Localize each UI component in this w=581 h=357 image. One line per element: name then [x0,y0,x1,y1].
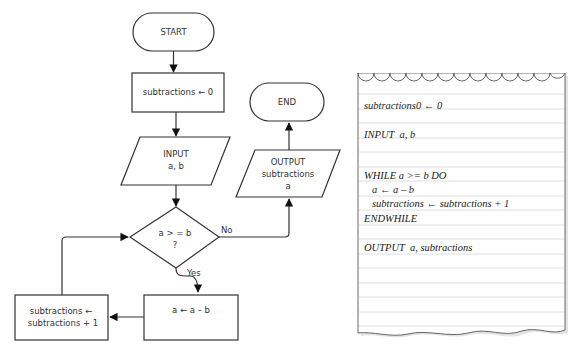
start-terminator: START [133,13,214,51]
init-label: subtractions ← 0 [143,87,214,97]
input-label-line1: INPUT [163,149,189,159]
pseudocode-line-increment: subtractions ← subtractions + 1 [372,198,509,210]
output-label-line3: a [285,181,290,191]
flowchart-canvas: START subtractions ← 0 INPUT a, b a > = … [0,0,581,357]
no-label: No [221,225,233,235]
pseudocode-line-output: OUTPUT a, subtractions [364,242,472,254]
decision-question-mark: ? [173,240,178,250]
pseudocode-line-input: INPUT a, b [364,129,415,141]
figure: START subtractions ← 0 INPUT a, b a > = … [0,0,581,357]
pseudocode-line-init: subtractions0 ← 0 [364,100,442,112]
output-parallelogram: OUTPUT subtractions a [236,150,340,197]
init-process-box: subtractions ← 0 [132,73,224,112]
output-label-line1: OUTPUT [271,157,306,167]
yes-label: Yes [186,268,201,278]
increment-label-line2: subtractions + 1 [28,318,99,328]
output-label-line2: subtractions [262,169,315,179]
decision-condition: a > = b [159,228,192,238]
pseudocode-line-endwhile: ENDWHILE [364,213,417,225]
increment-label-line1: subtractions ← [30,306,92,316]
decision-diamond: a > = b ? [130,207,219,268]
subtract-process-box: a ← a – b [144,295,238,340]
pseudocode-line-subtract: a ← a – b [372,184,414,196]
increment-process-box: subtractions ← subtractions + 1 [15,295,108,340]
end-label: END [278,97,297,107]
pseudocode-line-while: WHILE a >= b DO [364,170,446,182]
input-parallelogram: INPUT a, b [121,137,230,185]
end-terminator: END [250,83,324,121]
subtract-label: a ← a – b [172,305,210,315]
start-label: START [160,27,187,37]
arrow-loop-back [62,237,128,295]
input-label-line2: a, b [168,161,184,171]
